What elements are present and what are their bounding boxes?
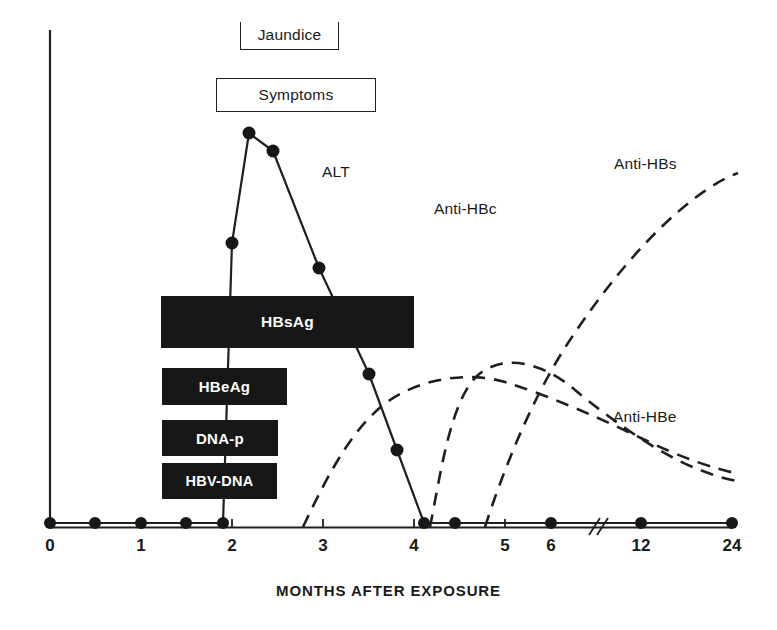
- x-tick-label-5: 5: [500, 536, 509, 556]
- event-box-jaundice: Jaundice: [240, 22, 339, 50]
- marker-bar-hbv-dna-label: HBV-DNA: [185, 473, 253, 489]
- x-axis-title: MONTHS AFTER EXPOSURE: [0, 582, 777, 599]
- curve-label-anti-hbs: Anti-HBs: [614, 155, 677, 173]
- marker-bar-dna-p: DNA-p: [162, 420, 278, 456]
- x-tick-label-0: 0: [45, 536, 54, 556]
- curve-anti-hbe: [430, 363, 737, 527]
- curve-anti-hbs: [485, 173, 738, 527]
- event-box-jaundice-label: Jaundice: [241, 27, 338, 43]
- x-tick-label-24: 24: [723, 536, 742, 556]
- x-tick-label-3: 3: [318, 536, 327, 556]
- x-tick-label-2: 2: [227, 536, 236, 556]
- curve-label-anti-hbc: Anti-HBc: [434, 200, 497, 218]
- hepatitis-b-serology-chart: Jaundice Symptoms HBsAg HBeAg DNA-p HBV-…: [0, 0, 777, 630]
- marker-bar-hbsag: HBsAg: [161, 296, 414, 348]
- curve-label-alt: ALT: [322, 163, 350, 181]
- event-box-symptoms-label: Symptoms: [217, 87, 375, 103]
- x-tick-label-4: 4: [409, 536, 418, 556]
- curve-label-anti-hbe: Anti-HBe: [613, 408, 677, 426]
- x-tick-label-6: 6: [546, 536, 555, 556]
- marker-bar-hbsag-label: HBsAg: [261, 313, 314, 331]
- x-tick-label-1: 1: [136, 536, 145, 556]
- marker-bar-hbeag: HBeAg: [162, 368, 287, 405]
- marker-bar-dna-p-label: DNA-p: [196, 430, 244, 447]
- event-box-symptoms: Symptoms: [216, 78, 376, 112]
- marker-bar-hbeag-label: HBeAg: [199, 378, 251, 395]
- curve-anti-hbc: [303, 377, 735, 527]
- x-tick-label-12: 12: [632, 536, 651, 556]
- marker-bar-hbv-dna: HBV-DNA: [162, 463, 277, 499]
